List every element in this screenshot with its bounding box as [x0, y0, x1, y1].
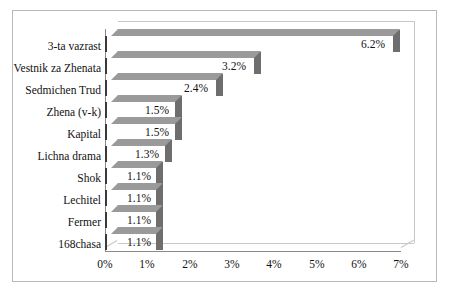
bar-chart-plot-area: 3-ta vazrast Vestnik za Zhenata Sedmiche… — [0, 0, 452, 299]
bar-front-face — [105, 190, 107, 206]
bar-value-label: 1.1% — [127, 171, 151, 183]
bar-value-label: 1.5% — [145, 127, 169, 139]
bar-top-face — [111, 73, 222, 80]
bar-front-face — [105, 80, 107, 96]
bar-vestnik-za-zhenata: 3.2% — [105, 58, 254, 74]
bar-sedmichen-trud: 2.4% — [105, 80, 216, 96]
category-label: Sedmichen Trud — [0, 85, 101, 97]
category-label: Zhena (v-k) — [0, 107, 101, 119]
bar-fermer: 1.1% — [105, 212, 156, 228]
bar-value-label: 1.1% — [127, 215, 151, 227]
category-label: 168chasa — [0, 239, 101, 251]
bar-top-face — [111, 139, 171, 146]
category-label: 3-ta vazrast — [0, 41, 101, 53]
bar-168chasa: 1.1% — [105, 234, 156, 250]
x-tick-label: 7% — [381, 259, 421, 271]
bar-value-label: 1.3% — [135, 149, 159, 161]
x-tick-label: 6% — [339, 259, 379, 271]
bar-value-label: 6.2% — [361, 39, 385, 51]
bar-shok: 1.1% — [105, 168, 156, 184]
back-wall-top-line — [118, 21, 414, 22]
category-label: Lechitel — [0, 195, 101, 207]
bar-front-face — [105, 146, 107, 162]
bar-top-face — [111, 227, 162, 234]
bar-value-label: 1.1% — [127, 193, 151, 205]
bar-top-face — [111, 51, 260, 58]
bar-top-face — [111, 117, 181, 124]
category-label: Vestnik za Zhenata — [0, 63, 101, 75]
x-tick-label: 4% — [254, 259, 294, 271]
bar-front-face — [105, 168, 107, 184]
bar-value-label: 2.4% — [184, 83, 208, 95]
bar-front-face — [105, 212, 107, 228]
bar-value-label: 1.1% — [127, 237, 151, 249]
x-tick-label: 3% — [212, 259, 252, 271]
bar-lichna-drama: 1.3% — [105, 146, 165, 162]
category-label: Fermer — [0, 217, 101, 229]
x-tick-label: 5% — [297, 259, 337, 271]
bar-top-face — [111, 95, 181, 102]
bar-value-label: 1.5% — [145, 105, 169, 117]
x-tick-label: 2% — [170, 259, 210, 271]
bar-zhena-v-k: 1.5% — [105, 102, 175, 118]
category-label: Shok — [0, 173, 101, 185]
bar-front-face — [105, 234, 107, 250]
bar-front-face — [105, 36, 107, 52]
bar-top-face — [111, 183, 162, 190]
bar-front-face — [105, 58, 107, 74]
bar-top-face — [111, 205, 162, 212]
category-label: Kapital — [0, 129, 101, 141]
bar-front-face — [105, 102, 107, 118]
bar-lechitel: 1.1% — [105, 190, 156, 206]
back-wall-right-line — [414, 21, 415, 243]
bar-value-label: 3.2% — [222, 61, 246, 73]
bar-3-ta-vazrast: 6.2% — [105, 36, 393, 52]
bar-top-face — [111, 161, 162, 168]
bar-top-face — [111, 29, 399, 36]
x-tick-label: 1% — [127, 259, 167, 271]
x-axis-line — [105, 251, 401, 252]
bar-kapital: 1.5% — [105, 124, 175, 140]
category-label: Lichna drama — [0, 151, 101, 163]
x-tick-label: 0% — [85, 259, 125, 271]
bar-front-face — [105, 124, 107, 140]
